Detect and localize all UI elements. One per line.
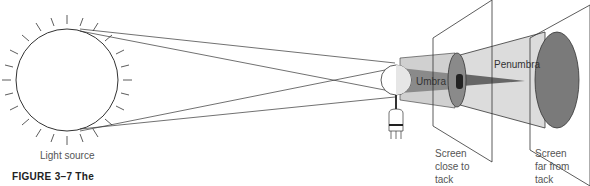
label-screen-far-line1: Screen xyxy=(535,147,569,160)
label-screen-close: Screen close to tack xyxy=(435,147,469,186)
far-shadow xyxy=(460,32,579,128)
figure-caption: FIGURE 3–7 The xyxy=(12,171,94,182)
label-screen-close-line1: Screen xyxy=(435,147,469,160)
label-light-source: Light source xyxy=(40,149,94,162)
label-screen-close-line2: close to xyxy=(435,160,469,173)
label-screen-far-line3: tack xyxy=(535,173,569,186)
far-shadow-disc xyxy=(535,32,579,128)
label-umbra: Umbra xyxy=(416,75,446,88)
label-screen-far-line2: far from xyxy=(535,160,569,173)
label-screen-far: Screen far from tack xyxy=(535,147,569,186)
light-source-circle xyxy=(16,29,118,131)
tack xyxy=(381,65,411,139)
label-penumbra: Penumbra xyxy=(494,58,540,71)
label-screen-close-line3: tack xyxy=(435,173,469,186)
